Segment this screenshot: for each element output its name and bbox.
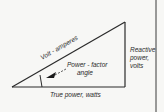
power-triangle-diagram: Volt - amperes Power - factor angle True… <box>0 0 164 112</box>
volt-amperes-label: Volt - amperes <box>39 33 80 61</box>
power-factor-label: Power - factor <box>67 61 108 68</box>
arrow-icon <box>46 69 66 78</box>
reactive-power-label-1: Reactive <box>130 46 156 53</box>
true-power-label: True power, watts <box>50 91 102 99</box>
angle-label: angle <box>77 69 93 77</box>
reactive-power-label-3: volts <box>130 62 144 69</box>
angle-marker <box>40 75 42 87</box>
hypotenuse-line <box>12 22 125 87</box>
reactive-power-label-2: power, <box>129 54 149 62</box>
